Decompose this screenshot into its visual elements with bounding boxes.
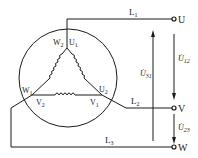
winding-u1-label: U1 [69,38,78,48]
terminal-u-icon [172,17,176,21]
arrow-u12-head-icon [172,93,176,100]
arrow-u31-head-icon [151,30,155,37]
voltage-u12-label: U̇12 [178,54,190,64]
terminal-w-icon [172,145,176,149]
line-l2-label: L2 [131,96,140,107]
arrow-u23-head-icon [172,137,176,144]
winding-w1-label: W1 [22,86,33,96]
voltage-u23-label: U̇23 [178,123,190,133]
winding-u2-label: U2 [99,85,108,95]
delta-connection-diagram: U V W L1 L2 L3 W2 U1 W1 V2 V1 U2 U̇31 U̇… [0,0,198,158]
terminal-w-label: W [178,142,188,153]
winding-w2-label: W2 [53,38,64,48]
coil-right [67,48,102,95]
voltage-u31-label: U̇31 [140,69,152,79]
winding-v2-label: V2 [36,98,45,108]
wire-l1 [67,19,172,48]
line-l1-label: L1 [129,7,138,18]
coil-left [32,48,67,95]
terminal-u-label: U [178,14,186,25]
winding-v1-label: V1 [90,98,99,108]
motor-housing-circle [19,29,117,127]
line-l3-label: L3 [105,135,114,146]
terminal-v-label: V [178,103,186,114]
coil-bottom [32,93,102,95]
terminal-v-icon [172,106,176,110]
